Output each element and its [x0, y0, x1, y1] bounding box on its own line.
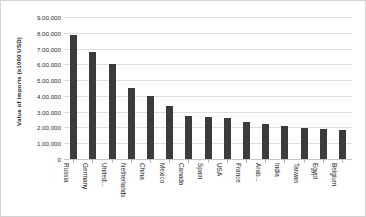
bar[interactable]	[205, 117, 212, 159]
x-axis-label-slot: China	[141, 163, 160, 215]
bar-slot	[141, 17, 160, 159]
x-axis-category-label: Canada	[178, 163, 185, 185]
bar-slot	[83, 17, 102, 159]
x-axis-label-slot: Egypt	[314, 163, 333, 215]
y-axis-tick-label: 0	[58, 156, 61, 163]
bar[interactable]	[243, 122, 250, 159]
bar-slot	[314, 17, 333, 159]
x-axis-category-label: USA	[217, 163, 224, 176]
bar[interactable]	[109, 64, 116, 159]
x-axis-label-slot: United...	[102, 163, 121, 215]
x-axis-category-labels: RussiaGermanyUnited...NetherlandsChinaMe…	[64, 163, 352, 215]
y-axis-tick-label: 3,00,000	[37, 108, 61, 115]
x-axis-category-label: Arab...	[255, 163, 262, 182]
bar-slot	[333, 17, 352, 159]
x-axis-label-slot: Spain	[198, 163, 217, 215]
bar[interactable]	[301, 128, 308, 159]
bar[interactable]	[339, 130, 346, 159]
x-axis-category-label: Egypt	[313, 163, 320, 179]
bar[interactable]	[262, 124, 269, 160]
x-axis-label-slot: Mexico	[160, 163, 179, 215]
x-axis-category-label: Taiwan	[293, 163, 300, 183]
x-axis-category-label: Belgium	[332, 163, 339, 186]
x-axis-category-label: India	[274, 163, 281, 177]
x-axis-label-slot: India	[275, 163, 294, 215]
x-axis-label-slot: Netherlands	[122, 163, 141, 215]
bar[interactable]	[147, 96, 154, 159]
x-axis-category-label: Russia	[63, 163, 70, 183]
bar[interactable]	[166, 106, 173, 159]
bar[interactable]	[224, 118, 231, 159]
bar-slot	[179, 17, 198, 159]
y-axis-tick-label: 7,00,000	[37, 45, 61, 52]
x-axis-label-slot: Germany	[83, 163, 102, 215]
x-axis-label-slot: Taiwan	[294, 163, 313, 215]
bar[interactable]	[320, 129, 327, 159]
bar-slot	[237, 17, 256, 159]
y-axis-tick-label: 4,00,000	[37, 92, 61, 99]
bar-slot	[275, 17, 294, 159]
x-axis-label-slot: France	[237, 163, 256, 215]
y-axis-tick-label: 8,00,000	[37, 29, 61, 36]
x-axis-category-label: Netherlands	[121, 163, 128, 197]
y-axis-tick-label: 6,00,000	[37, 61, 61, 68]
x-axis-category-label: China	[140, 163, 147, 180]
bar-slot	[256, 17, 275, 159]
y-axis-tick-label: 9,00,000	[37, 14, 61, 21]
bar[interactable]	[70, 35, 77, 159]
bar-slot	[198, 17, 217, 159]
x-axis-category-label: United...	[101, 163, 108, 187]
x-axis-label-slot: Russia	[64, 163, 83, 215]
chart-container: Value of imports (x1000 USD) 01,00,0002,…	[0, 0, 366, 217]
x-axis-category-label: Spain	[197, 163, 204, 179]
y-axis-tick-label: 5,00,000	[37, 77, 61, 84]
y-axis-title-label: Value of imports (x1000 USD)	[15, 37, 22, 126]
x-axis-label-slot: USA	[218, 163, 237, 215]
bar[interactable]	[281, 126, 288, 159]
x-axis-category-label: France	[236, 163, 243, 183]
plot-area	[64, 17, 352, 159]
y-axis-tick-label: 2,00,000	[37, 124, 61, 131]
x-axis-category-label: Mexico	[159, 163, 166, 183]
bar[interactable]	[185, 116, 192, 159]
x-axis-label-slot: Belgium	[333, 163, 352, 215]
bar-slot	[294, 17, 313, 159]
bar-slot	[160, 17, 179, 159]
bar-slot	[102, 17, 121, 159]
x-axis-label-slot: Arab...	[256, 163, 275, 215]
bar-slot	[218, 17, 237, 159]
x-axis-label-slot: Canada	[179, 163, 198, 215]
bar[interactable]	[128, 88, 135, 159]
y-axis-tick-label: 1,00,000	[37, 140, 61, 147]
y-axis-tick-labels: 01,00,0002,00,0003,00,0004,00,0005,00,00…	[23, 17, 63, 159]
bar-slot	[122, 17, 141, 159]
bar-series	[64, 17, 352, 159]
bar[interactable]	[89, 52, 96, 159]
x-axis-category-label: Germany	[82, 163, 89, 189]
bar-slot	[64, 17, 83, 159]
